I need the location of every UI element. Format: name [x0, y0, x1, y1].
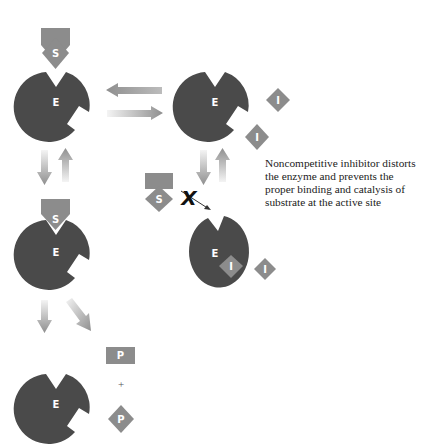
equilibrium-arrows-left: [37, 148, 73, 185]
svg-text:P: P: [117, 414, 124, 425]
diagram-canvas: S E E I I E S: [0, 0, 433, 446]
enzyme-free-bottom: E: [14, 374, 90, 444]
svg-text:E: E: [53, 247, 60, 258]
svg-text:I: I: [276, 95, 280, 106]
svg-text:S: S: [52, 214, 59, 225]
svg-text:S: S: [52, 48, 59, 59]
equilibrium-arrows-right: [196, 148, 230, 185]
enzyme-top-right: E: [173, 72, 249, 142]
equilibrium-arrows-horizontal: [106, 83, 163, 120]
caption-line: substrate at the active site: [265, 196, 433, 209]
svg-text:I: I: [255, 132, 259, 143]
product-rect: P: [106, 347, 135, 364]
svg-text:I: I: [263, 264, 267, 275]
product-diamond: P: [108, 405, 134, 433]
enzyme-substrate-complex: E S: [14, 199, 90, 290]
svg-text:X: X: [179, 186, 198, 210]
caption-line: proper binding and catalysis of: [265, 183, 433, 196]
inhibitor-top: I: [266, 88, 290, 112]
svg-text:I: I: [229, 261, 233, 272]
enzyme-top-left: E: [14, 72, 90, 142]
svg-text:E: E: [212, 97, 219, 108]
substrate-top-left: S: [41, 28, 70, 69]
caption-line: Noncompetitive inhibitor distorts: [265, 157, 433, 170]
plus-sign: +: [118, 378, 124, 390]
svg-text:E: E: [53, 399, 60, 410]
caption-noncompetitive-inhibition: Noncompetitive inhibitor distorts the en…: [265, 157, 433, 209]
svg-text:E: E: [212, 248, 219, 259]
enzyme-distorted: E: [189, 216, 249, 287]
product-arrows: [37, 298, 91, 333]
inhibitor-middle: I: [245, 124, 269, 150]
svg-text:P: P: [117, 350, 124, 361]
blocked-binding-arrow: X: [179, 186, 211, 210]
svg-text:E: E: [53, 97, 60, 108]
caption-line: the enzyme and prevents the: [265, 170, 433, 183]
substrate-blocked: S: [145, 173, 173, 212]
inhibitor-free: I: [254, 258, 276, 280]
svg-text:S: S: [155, 194, 162, 205]
